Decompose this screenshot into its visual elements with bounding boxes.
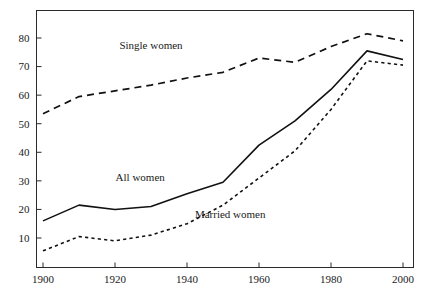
y-tick-label: 40 — [19, 146, 31, 158]
series-label-all-women: All women — [116, 171, 166, 183]
series-line-married-women — [43, 61, 403, 251]
series-line-single-women — [43, 34, 403, 114]
x-tick-label: 1920 — [104, 273, 127, 285]
y-tick-label: 50 — [19, 118, 31, 130]
series-label-single-women: Single women — [119, 39, 183, 51]
y-tick-label: 10 — [19, 232, 31, 244]
x-tick-label: 1980 — [320, 273, 343, 285]
y-tick-label: 70 — [19, 60, 31, 72]
x-axis: 190019201940196019802000 — [32, 263, 415, 285]
x-tick-label: 2000 — [392, 273, 415, 285]
x-tick-label: 1940 — [176, 273, 199, 285]
x-tick-label: 1900 — [32, 273, 55, 285]
plot-frame — [37, 11, 414, 268]
chart-figure: 1020304050607080 19001920194019601980200… — [0, 0, 425, 304]
y-tick-label: 60 — [19, 89, 31, 101]
y-tick-label: 30 — [19, 175, 31, 187]
y-tick-label: 80 — [19, 32, 31, 44]
clipped-caption — [6, 297, 246, 304]
line-chart: 1020304050607080 19001920194019601980200… — [0, 0, 425, 304]
x-tick-label: 1960 — [248, 273, 271, 285]
y-axis: 1020304050607080 — [19, 32, 42, 244]
series-line-all-women — [43, 51, 403, 221]
series-label-married-women: Married women — [195, 208, 266, 220]
y-tick-label: 20 — [19, 203, 31, 215]
